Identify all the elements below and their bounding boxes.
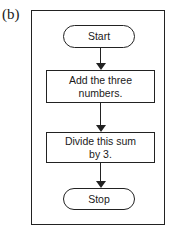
stop-terminal: Stop <box>63 188 135 210</box>
arrow-head <box>96 63 106 70</box>
arrow-head <box>96 125 106 132</box>
arrow-head <box>96 181 106 188</box>
process-divide-sum: Divide this sum by 3. <box>46 132 155 163</box>
arrow-step2-to-stop <box>100 163 101 182</box>
arrow-start-to-step1 <box>100 48 101 64</box>
process-add-numbers: Add the three numbers. <box>46 70 155 103</box>
arrow-step1-to-step2 <box>100 103 101 126</box>
figure-label: (b) <box>2 6 20 23</box>
start-terminal: Start <box>63 25 135 48</box>
